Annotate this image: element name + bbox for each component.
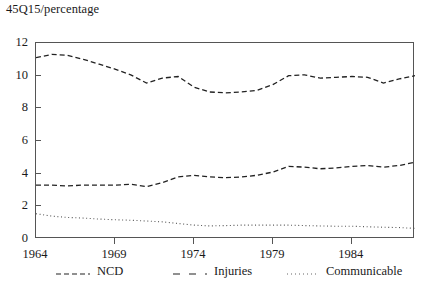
- legend-item-ncd[interactable]: NCD: [56, 265, 123, 278]
- chart-container: 45Q15/percentage 024681012 1964196919741…: [0, 0, 426, 286]
- legend-item-communicable[interactable]: Communicable: [285, 265, 402, 278]
- series-line-communicable: [36, 214, 415, 229]
- legend-swatch-injuries: [173, 267, 207, 275]
- y-axis-tick-label: 10: [0, 69, 28, 82]
- x-axis-tick-label: 1974: [168, 248, 218, 261]
- legend-label-communicable: Communicable: [326, 265, 402, 278]
- series-layer: [36, 43, 415, 239]
- legend-label-ncd: NCD: [97, 265, 123, 278]
- legend-label-injuries: Injuries: [214, 265, 252, 278]
- x-axis-tick-label: 1964: [10, 248, 60, 261]
- y-axis-tick-label: 2: [0, 199, 28, 212]
- x-axis-tick-label: 1984: [326, 248, 376, 261]
- chart-legend: NCD Injuries Communicable: [35, 265, 414, 283]
- y-axis-tick-label: 0: [0, 232, 28, 245]
- x-axis-tick-label: 1979: [247, 248, 297, 261]
- y-axis-tick-label: 4: [0, 167, 28, 180]
- y-axis-tick-label: 12: [0, 36, 28, 49]
- x-axis-tick-label: 1969: [89, 248, 139, 261]
- y-axis-tick-label: 6: [0, 134, 28, 147]
- legend-swatch-ncd: [56, 267, 90, 275]
- series-line-ncd: [36, 54, 415, 92]
- chart-title: 45Q15/percentage: [6, 2, 99, 17]
- plot-area: [35, 42, 414, 238]
- legend-swatch-communicable: [285, 267, 319, 275]
- legend-item-injuries[interactable]: Injuries: [173, 265, 252, 278]
- y-axis-tick-label: 8: [0, 101, 28, 114]
- series-line-injuries: [36, 162, 415, 186]
